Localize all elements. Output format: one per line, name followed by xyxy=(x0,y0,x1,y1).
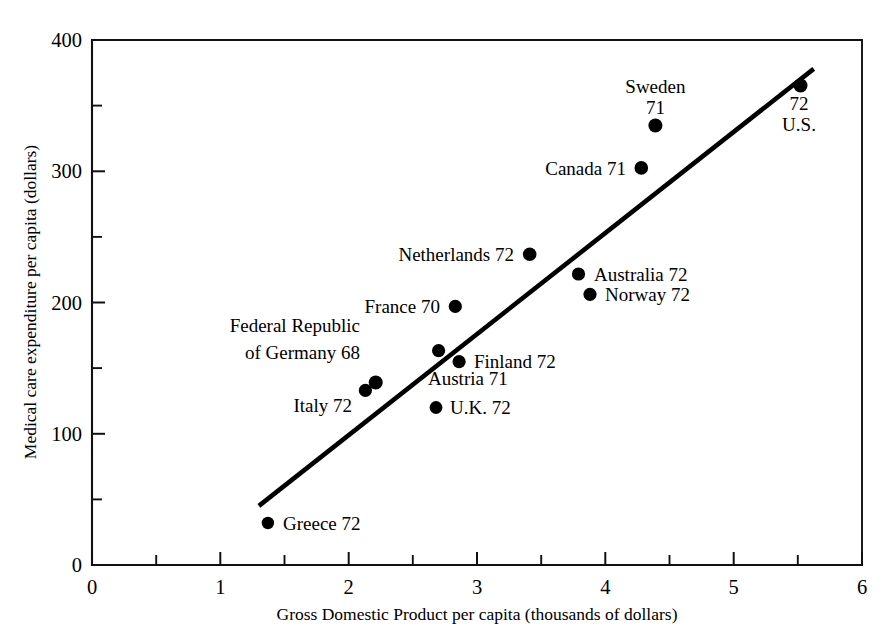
chart-figure: 0 100 200 300 400 0 1 2 3 4 5 6 Gross Do… xyxy=(0,0,887,629)
point-label-australia: Australia 72 xyxy=(594,264,687,285)
point-label-norway: Norway 72 xyxy=(605,284,690,305)
y-axis-title: Medical care expenditure per capita (dol… xyxy=(20,145,40,460)
point-label-netherlands: Netherlands 72 xyxy=(398,244,514,265)
data-point-sweden[interactable] xyxy=(648,119,662,133)
y-tick-label-100: 100 xyxy=(51,423,82,445)
point-label-sweden-line2: 71 xyxy=(646,97,665,118)
x-tick-label-1: 1 xyxy=(215,576,225,598)
data-points xyxy=(262,79,808,530)
data-point-germany[interactable] xyxy=(369,376,383,390)
y-tick-label-300: 300 xyxy=(51,160,82,182)
data-point-greece[interactable] xyxy=(262,517,274,529)
x-tick-label-6: 6 xyxy=(857,576,867,598)
y-tick-labels: 0 100 200 300 400 xyxy=(51,29,82,576)
y-tick-label-200: 200 xyxy=(51,292,82,314)
x-axis-ticks xyxy=(92,552,862,565)
y-tick-label-400: 400 xyxy=(51,29,82,51)
x-tick-label-3: 3 xyxy=(472,576,482,598)
x-axis-title: Gross Domestic Product per capita (thous… xyxy=(277,604,678,624)
data-point-canada[interactable] xyxy=(635,161,649,175)
data-point-australia[interactable] xyxy=(572,267,585,280)
point-label-italy: Italy 72 xyxy=(293,395,352,416)
y-tick-label-0: 0 xyxy=(72,554,82,576)
data-point-finland[interactable] xyxy=(453,355,466,368)
point-label-germany-line2: of Germany 68 xyxy=(245,342,360,363)
point-label-germany-line1: Federal Republic xyxy=(230,315,360,336)
trend-line xyxy=(259,69,814,506)
plot-frame xyxy=(92,40,862,565)
data-point-uk[interactable] xyxy=(430,401,443,414)
point-labels: Greece 72 Italy 72 Federal Republic of G… xyxy=(230,76,816,534)
x-tick-label-2: 2 xyxy=(344,576,354,598)
x-tick-labels: 0 1 2 3 4 5 6 xyxy=(87,576,867,598)
data-point-us[interactable] xyxy=(794,79,808,93)
data-point-austria[interactable] xyxy=(432,344,445,357)
x-tick-label-5: 5 xyxy=(729,576,739,598)
point-label-us-line1: 72 xyxy=(790,93,809,114)
x-tick-label-4: 4 xyxy=(600,576,610,598)
point-label-france: France 70 xyxy=(365,296,440,317)
data-point-norway[interactable] xyxy=(583,288,596,301)
y-axis-ticks xyxy=(92,40,105,565)
point-label-finland: Finland 72 xyxy=(474,351,556,372)
x-tick-label-0: 0 xyxy=(87,576,97,598)
point-label-greece: Greece 72 xyxy=(283,513,361,534)
data-point-netherlands[interactable] xyxy=(523,248,537,262)
data-point-france[interactable] xyxy=(449,300,462,313)
scatter-plot: 0 100 200 300 400 0 1 2 3 4 5 6 Gross Do… xyxy=(0,0,887,629)
point-label-uk: U.K. 72 xyxy=(450,397,511,418)
point-label-sweden-line1: Sweden xyxy=(625,76,686,97)
point-label-us-line2: U.S. xyxy=(782,114,816,135)
point-label-canada: Canada 71 xyxy=(545,158,626,179)
